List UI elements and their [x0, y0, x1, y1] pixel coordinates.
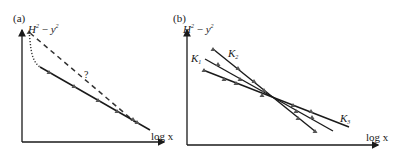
- panel-a-plot: [27, 30, 151, 130]
- panel-b-x-axis-label: log x: [366, 132, 388, 143]
- panel-b-plot: [203, 49, 349, 132]
- panel-a-y-axis-label: H2 − y2: [28, 23, 59, 35]
- k3-label: K3: [340, 113, 350, 125]
- panel-a-markers: [27, 30, 140, 124]
- k1-label: K1: [191, 53, 201, 65]
- dotted-curve: [29, 32, 40, 67]
- k2-label: K2: [228, 48, 238, 60]
- panel-a-x-axis-label: log x: [151, 131, 173, 142]
- line-middle: [205, 59, 333, 131]
- dashed-extrapolation-line: [30, 33, 135, 122]
- panel-b-axes: [187, 30, 378, 145]
- panel-b-y-axis-label: H2 − y2: [183, 23, 214, 35]
- panel-a-label: (a): [13, 13, 25, 24]
- question-annotation: ?: [84, 70, 88, 80]
